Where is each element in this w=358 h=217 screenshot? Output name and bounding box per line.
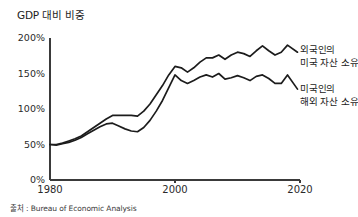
series-label-us-owned-foreign: 미국인의 해외 자산 소유: [300, 83, 358, 108]
series-line-us-owned-foreign: [50, 74, 298, 146]
series-label-foreign-owned-us-line1: 외국인의: [300, 44, 358, 57]
y-tick-label: 100%: [18, 103, 45, 114]
series-label-us-owned-foreign-line1: 미국인의: [300, 83, 358, 96]
y-tick-label: 200%: [18, 32, 45, 43]
x-tick-label: 2020: [287, 184, 312, 195]
y-tick-label: 50%: [24, 139, 45, 150]
x-tick-label: 1980: [37, 184, 62, 195]
x-tick-label: 2000: [162, 184, 187, 195]
y-tick-label: 150%: [18, 68, 45, 79]
series-line-foreign-owned-us: [50, 45, 298, 144]
series-label-foreign-owned-us-line2: 미국 자산 소유: [300, 57, 358, 70]
series-label-foreign-owned-us: 외국인의 미국 자산 소유: [300, 44, 358, 69]
series-label-us-owned-foreign-line2: 해외 자산 소유: [300, 96, 358, 109]
y-axis-tick-labels: 0%50%100%150%200%: [18, 32, 45, 185]
source-note: 출처 : Bureau of Economic Analysis: [10, 202, 136, 213]
x-axis-tick-labels: 198020002020: [37, 184, 312, 195]
